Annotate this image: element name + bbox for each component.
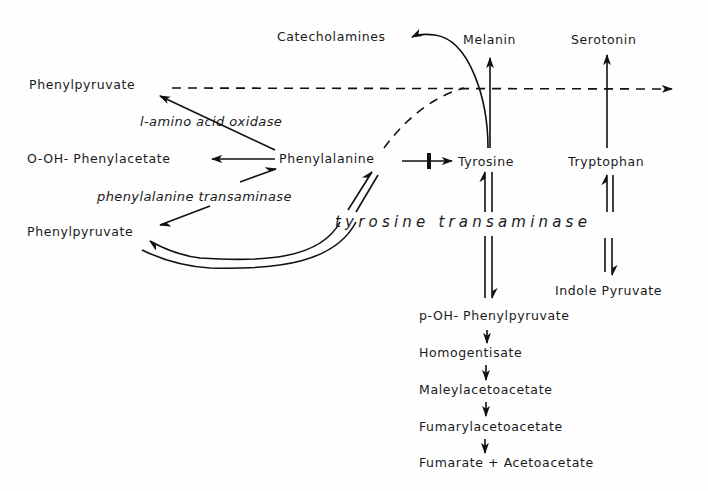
node-fumarylacetoacetate: Fumarylacetoacetate	[419, 420, 563, 434]
node-serotonin: Serotonin	[571, 33, 636, 47]
node-catecholamines: Catecholamines	[277, 30, 386, 44]
pathway-arrows	[0, 0, 708, 491]
node-fumarate-acetoacetate: Fumarate + Acetoacetate	[419, 456, 594, 470]
line-ttransaminase-from-phenylpyruvate	[142, 222, 356, 268]
pathway-diagram: Catecholamines Melanin Serotonin Phenylp…	[0, 0, 708, 491]
node-phenylpyruvate-bottom: Phenylpyruvate	[27, 225, 133, 239]
dashed-curve-phenylalanine	[384, 88, 464, 148]
node-maleylacetoacetate: Maleylacetoacetate	[419, 383, 552, 397]
node-melanin: Melanin	[463, 33, 516, 47]
enzyme-tyrosine-transaminase: tyrosine transaminase	[335, 215, 591, 229]
arrow-to-catecholamines	[412, 34, 488, 148]
node-homogentisate: Homogentisate	[419, 346, 522, 360]
enzyme-phenylalanine-transaminase: phenylalanine transaminase	[97, 190, 292, 204]
node-indole-pyruvate: Indole Pyruvate	[555, 284, 662, 298]
dashed-line-to-right	[172, 88, 672, 89]
node-phenylpyruvate-top: Phenylpyruvate	[29, 78, 135, 92]
enzyme-l-amino-acid-oxidase: l-amino acid oxidase	[140, 115, 282, 129]
node-tyrosine: Tyrosine	[458, 155, 514, 169]
node-o-oh-phenylacetate: O-OH- Phenylacetate	[27, 152, 171, 166]
node-tryptophan: Tryptophan	[568, 155, 644, 169]
arrow-ttransaminase-to-phenylpyruvate	[150, 222, 340, 259]
node-phenylalanine: Phenylalanine	[279, 152, 375, 166]
node-p-oh-phenylpyruvate: p-OH- Phenylpyruvate	[419, 309, 570, 323]
arrow-ptransaminase-forward	[240, 169, 276, 182]
arrow-ptransaminase-reverse	[160, 206, 210, 225]
